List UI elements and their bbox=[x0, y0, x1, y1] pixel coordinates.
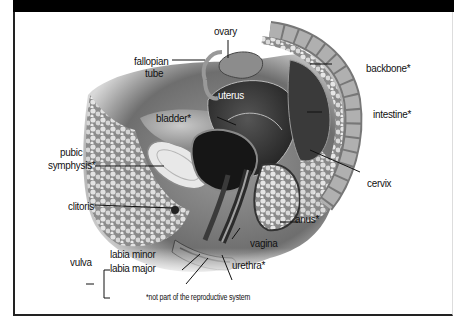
label-clitoris: clitoris bbox=[68, 200, 94, 212]
label-fallopian-tube-line2: tube bbox=[145, 67, 163, 79]
label-pubic-symphysis-line2: symphysis* bbox=[48, 159, 95, 171]
ovary-shape bbox=[219, 52, 263, 78]
label-vagina: vagina bbox=[250, 237, 278, 249]
label-labia-minor: labia minor bbox=[110, 248, 156, 260]
label-labia-major: labia major bbox=[110, 262, 156, 274]
label-intestine: intestine* bbox=[373, 108, 411, 120]
footnote: *not part of the reproductive system bbox=[146, 292, 250, 302]
label-bladder: bladder* bbox=[156, 112, 191, 124]
label-anus: anus* bbox=[295, 213, 319, 225]
label-urethra: urethra* bbox=[232, 259, 265, 271]
label-uterus: uterus bbox=[218, 89, 244, 101]
label-fallopian-tube-line1: fallopian bbox=[134, 55, 169, 67]
label-cervix: cervix bbox=[367, 177, 391, 189]
label-ovary: ovary bbox=[214, 25, 237, 37]
label-vulva: vulva bbox=[70, 256, 92, 268]
label-pubic-symphysis-line1: pubic bbox=[60, 146, 82, 158]
clitoris-shape bbox=[171, 206, 179, 214]
label-backbone: backbone* bbox=[366, 62, 410, 74]
rectum-shape bbox=[254, 164, 300, 230]
